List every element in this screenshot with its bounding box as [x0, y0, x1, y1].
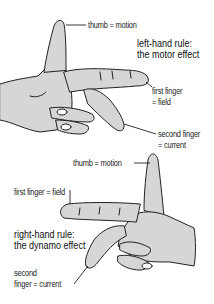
- left-first-finger-label: first finger: [152, 86, 182, 96]
- right-hand-rule-title: right-hand rule:: [14, 229, 75, 241]
- left-second-finger-value: = current: [158, 140, 186, 150]
- right-second-finger-value: finger = current: [14, 279, 61, 289]
- left-hand-icon: [0, 20, 148, 134]
- left-hand-rule-subtitle: the motor effect: [137, 49, 199, 61]
- hand-rules-diagram: thumb = motion left-hand rule: the motor…: [0, 0, 214, 304]
- left-thumb-label: thumb = motion: [88, 20, 137, 30]
- left-hand-rule-title: left-hand rule:: [137, 38, 192, 50]
- right-second-finger-label: second: [14, 268, 37, 278]
- right-hand-icon: [61, 154, 196, 270]
- right-first-finger-label: first finger = field: [14, 187, 65, 197]
- left-second-finger-label: second finger: [158, 129, 200, 139]
- left-first-finger-value: = field: [152, 97, 171, 107]
- right-thumb-label: thumb = motion: [73, 158, 122, 168]
- right-hand-rule-subtitle: the dynamo effect: [14, 240, 85, 252]
